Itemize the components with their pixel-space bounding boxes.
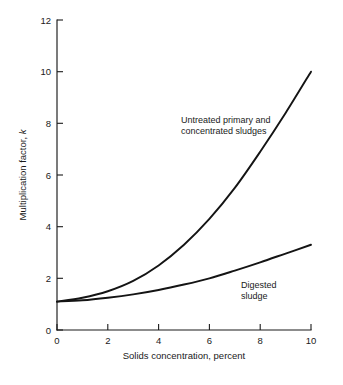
annotation-untreated-primary: Untreated primary and concentrated sludg… <box>181 115 271 136</box>
x-tick-label-8: 8 <box>258 335 263 346</box>
x-tick-label-2: 2 <box>105 335 110 346</box>
line-chart-svg: 12 10 8 6 4 2 0 0 2 4 6 8 10 Solids con <box>0 0 343 385</box>
x-tick-label-0: 0 <box>54 335 59 346</box>
annotation-digested-line-1: Digested <box>241 280 277 290</box>
chart-background <box>0 0 343 385</box>
y-tick-label-8: 8 <box>46 118 51 129</box>
y-tick-label-4: 4 <box>46 221 51 232</box>
y-axis-title: Multiplication factor, k <box>17 128 28 220</box>
chart-figure: 12 10 8 6 4 2 0 0 2 4 6 8 10 Solids con <box>0 0 343 385</box>
y-axis-title-text: Multiplication factor, <box>17 137 28 220</box>
annotation-untreated-line-2: concentrated sludges <box>181 126 267 136</box>
y-tick-label-12: 12 <box>40 15 51 26</box>
y-tick-label-6: 6 <box>46 170 51 181</box>
annotation-untreated-line-1: Untreated primary and <box>181 115 271 125</box>
y-tick-label-0: 0 <box>46 325 51 336</box>
y-tick-label-2: 2 <box>46 273 51 284</box>
x-axis-title: Solids concentration, percent <box>123 350 246 361</box>
annotation-digested-line-2: sludge <box>241 291 268 301</box>
x-tick-label-4: 4 <box>156 335 161 346</box>
x-tick-label-10: 10 <box>306 335 317 346</box>
y-tick-label-10: 10 <box>40 66 51 77</box>
x-tick-label-6: 6 <box>207 335 212 346</box>
